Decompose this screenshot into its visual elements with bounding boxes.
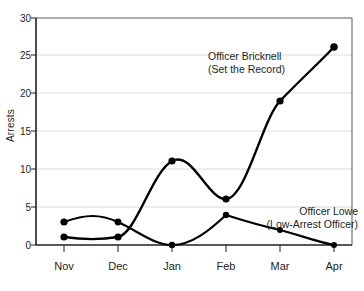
annotation-lowe-line2: (Low-Arrest Officer) (236, 218, 358, 231)
plot-area (0, 0, 364, 291)
x-axis-ticks (64, 245, 334, 252)
annotation-lowe-line1: Officer Lowe (236, 205, 358, 218)
annotation-bricknell: Officer Bricknell (Set the Record) (208, 50, 285, 76)
annotation-bricknell-line1: Officer Bricknell (208, 50, 285, 63)
annotation-bricknell-line2: (Set the Record) (208, 63, 285, 76)
annotation-lowe: Officer Lowe (Low-Arrest Officer) (236, 205, 358, 231)
arrests-line-chart: Arrests 30 25 20 15 10 5 0 Nov Dec Jan F… (0, 0, 364, 291)
